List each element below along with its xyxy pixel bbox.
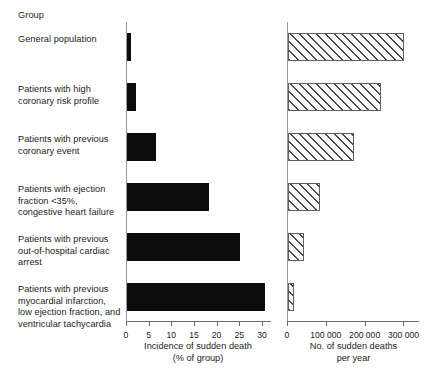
group-label: Patients with previouscoronary event — [18, 134, 130, 157]
bar-incidence — [127, 183, 209, 211]
group-label: General population — [18, 34, 130, 46]
axis-tick-label: 25 — [235, 330, 245, 340]
axis-tick — [365, 322, 366, 326]
bar-deaths — [288, 283, 294, 311]
deaths-y-axis-line — [287, 22, 288, 322]
axis-tick-label: 300 000 — [388, 330, 419, 340]
axis-tick — [149, 322, 150, 326]
group-label: Patients with highcoronary risk profile — [18, 84, 130, 107]
axis-tick-label: 20 — [212, 330, 222, 340]
group-label-line: Patients with previous — [18, 234, 130, 246]
axis-tick-label: 30 — [257, 330, 267, 340]
group-label-line: Patients with previous — [18, 134, 130, 146]
bar-incidence — [127, 233, 240, 261]
incidence-y-axis-line — [126, 22, 127, 322]
axis-tick-label: 10 — [167, 330, 177, 340]
bar-deaths — [288, 33, 404, 61]
group-label-line: congestive heart failure — [18, 207, 130, 219]
axis-tick — [326, 322, 327, 326]
group-column-header: Group — [18, 10, 44, 20]
group-label-line: coronary risk profile — [18, 96, 130, 108]
axis-caption-line: per year — [275, 352, 432, 364]
group-label: Patients with previousout-of-hospital ca… — [18, 234, 130, 269]
axis-tick — [126, 322, 127, 326]
deaths-x-axis-line — [287, 321, 419, 322]
group-label-line: coronary event — [18, 146, 130, 158]
group-label-line: fraction <35%, — [18, 196, 130, 208]
axis-tick — [171, 322, 172, 326]
bar-deaths — [288, 183, 320, 211]
bar-deaths — [288, 83, 381, 111]
group-label-line: out-of-hospital cardiac — [18, 246, 130, 258]
axis-tick-label: 200 000 — [349, 330, 380, 340]
axis-tick — [403, 322, 404, 326]
group-label-line: ventricular tachycardia — [18, 319, 130, 331]
group-label-line: Patients with high — [18, 84, 130, 96]
deaths-axis-caption: No. of sudden deathsper year — [275, 340, 432, 364]
sudden-death-chart: Group General populationPatients with hi… — [0, 0, 436, 381]
bar-incidence — [127, 83, 136, 111]
group-label-line: Patients with previous — [18, 284, 130, 296]
axis-tick — [217, 322, 218, 326]
group-label-line: arrest — [18, 257, 130, 269]
axis-tick-label: 0 — [285, 330, 290, 340]
incidence-axis-caption: Incidence of sudden death(% of group) — [118, 340, 278, 364]
axis-tick — [262, 322, 263, 326]
axis-tick — [194, 322, 195, 326]
axis-tick — [239, 322, 240, 326]
panel-deaths: 0100 000200 000300 000 — [287, 22, 419, 322]
axis-tick-label: 0 — [124, 330, 129, 340]
group-label-line: low ejection fraction, and — [18, 307, 130, 319]
bar-incidence — [127, 133, 156, 161]
axis-caption-line: Incidence of sudden death — [118, 340, 278, 352]
axis-tick-label: 15 — [189, 330, 199, 340]
group-label: Patients with previousmyocardial infarct… — [18, 284, 130, 330]
bar-incidence — [127, 283, 265, 311]
group-label-line: myocardial infarction, — [18, 296, 130, 308]
bar-deaths — [288, 133, 354, 161]
axis-tick-label: 100 000 — [310, 330, 341, 340]
axis-caption-line: No. of sudden deaths — [275, 340, 432, 352]
group-label-column: Group General populationPatients with hi… — [18, 0, 126, 330]
axis-caption-line: (% of group) — [118, 352, 278, 364]
group-label: Patients with ejectionfraction <35%,cong… — [18, 184, 130, 219]
bar-deaths — [288, 233, 304, 261]
group-label-line: General population — [18, 34, 130, 46]
bar-incidence — [127, 33, 131, 61]
axis-tick-label: 5 — [146, 330, 151, 340]
axis-tick — [287, 322, 288, 326]
panel-incidence: 051015202530 — [126, 22, 271, 322]
group-label-line: Patients with ejection — [18, 184, 130, 196]
